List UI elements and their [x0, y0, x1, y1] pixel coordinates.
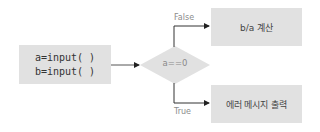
- input-line-a: a=input( ): [35, 51, 95, 65]
- input-line-b: b=input( ): [35, 65, 95, 79]
- true-edge-label: True: [174, 107, 191, 116]
- compute-division-label: b/a 계산: [240, 21, 273, 34]
- error-message-node: 에러 메시지 출력: [211, 85, 302, 123]
- arrow-true-branch: [174, 83, 209, 103]
- false-edge-label: False: [174, 13, 194, 22]
- error-message-label: 에러 메시지 출력: [226, 98, 288, 111]
- flowchart-canvas: a=input( ) b=input( ) a==0 False True b/…: [0, 0, 320, 132]
- decision-label: a==0: [150, 58, 200, 68]
- arrow-false-branch: [174, 26, 209, 47]
- compute-division-node: b/a 계산: [211, 8, 302, 46]
- input-node: a=input( ) b=input( ): [19, 45, 111, 84]
